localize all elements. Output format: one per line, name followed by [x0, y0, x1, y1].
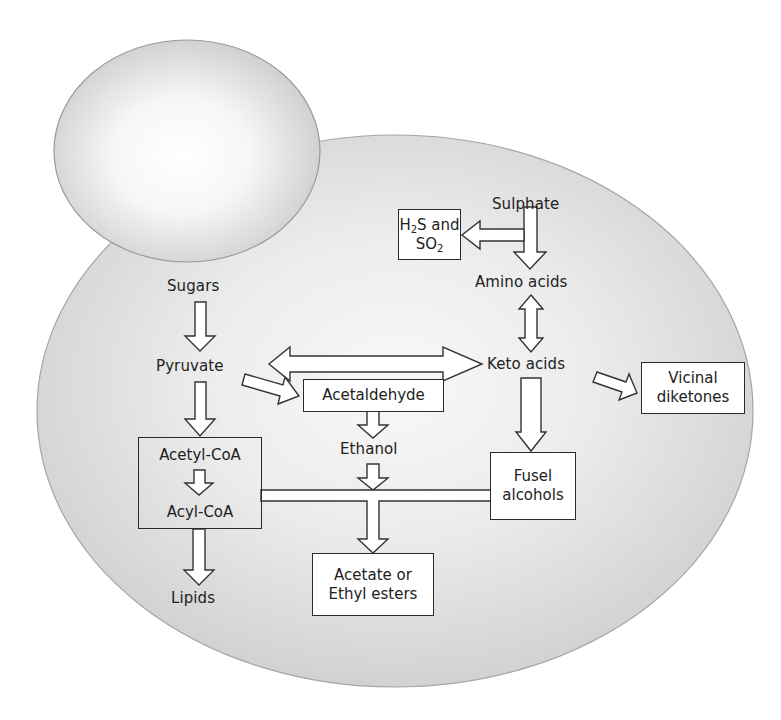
node-lipids: Lipids [171, 589, 215, 607]
yeast-bud [54, 40, 320, 262]
so2-line: SO2 [416, 235, 444, 254]
node-acetyl-coa: Acetyl-CoA [159, 446, 241, 465]
node-pyruvate: Pyruvate [156, 357, 224, 375]
node-keto-acids: Keto acids [487, 355, 565, 373]
node-sugars: Sugars [167, 277, 219, 295]
h2s-line: H2S and [399, 216, 459, 235]
node-acetate-ethyl-esters: Acetate or Ethyl esters [312, 553, 434, 616]
node-sulphate: Sulphate [492, 195, 559, 213]
node-h2s-so2: H2S and SO2 [398, 209, 461, 260]
node-ethanol: Ethanol [340, 440, 398, 458]
node-amino-acids: Amino acids [475, 273, 568, 291]
node-vicinal-diketones: Vicinal diketones [641, 362, 745, 414]
node-acetyl-acyl-coa-group: Acetyl-CoA Acyl-CoA [138, 437, 262, 529]
node-acyl-coa: Acyl-CoA [167, 503, 234, 522]
node-acetaldehyde: Acetaldehyde [303, 379, 444, 412]
node-fusel-alcohols: Fusel alcohols [490, 452, 576, 520]
